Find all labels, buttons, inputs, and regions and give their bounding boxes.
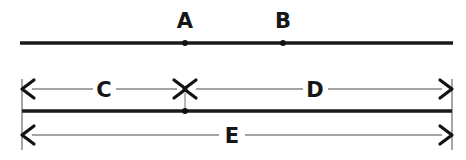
dimension-d-label: D (306, 78, 323, 102)
geometry-diagram: A B C D (0, 0, 466, 160)
diagram-canvas: A B C D (0, 0, 466, 160)
dimension-d-arrow-left (184, 80, 196, 98)
dimension-e-label: E (225, 124, 239, 148)
point-a-dot (182, 40, 188, 46)
bottom-midpoint-dot (182, 108, 188, 114)
dimension-c-label: C (96, 78, 111, 102)
point-b-dot (280, 40, 286, 46)
top-segment-group (20, 40, 453, 46)
bottom-segment-group (22, 108, 452, 114)
point-b-label: B (275, 9, 291, 33)
point-a-label: A (177, 9, 194, 33)
